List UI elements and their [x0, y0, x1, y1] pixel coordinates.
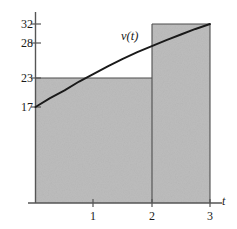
curve-label-vt: v(t)	[121, 30, 138, 43]
y-tick-label-28: 28	[11, 37, 33, 49]
x-tick-label-1: 1	[86, 210, 100, 222]
shaded-rect-right	[152, 24, 210, 203]
y-tick-label-32: 32	[11, 18, 33, 30]
y-tick-label-17: 17	[11, 101, 33, 113]
x-tick-label-2: 2	[145, 210, 159, 222]
chart-canvas	[0, 0, 237, 229]
x-tick-label-3: 3	[203, 210, 217, 222]
y-tick-label-23: 23	[11, 72, 33, 84]
x-axis-label: t	[222, 195, 225, 207]
velocity-area-chart: 32 28 23 17 1 2 3 t v(t)	[0, 0, 237, 229]
